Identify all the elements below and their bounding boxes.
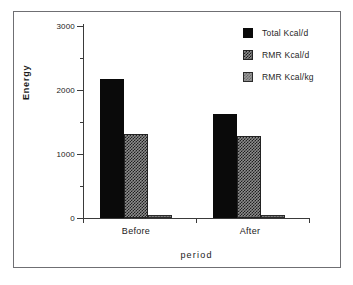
bar-before-rmr-kcal-kg	[148, 215, 172, 218]
legend-swatch-hatch-icon	[243, 50, 253, 60]
bar-after-rmr-kcal-d	[237, 136, 261, 218]
legend-label-rmr-kcal-kg: RMR Kcal/kg	[262, 72, 314, 82]
y-tick-label-3000: 3000	[56, 22, 75, 31]
y-tick-minor-2500	[80, 58, 83, 59]
bar-before-rmr-kcal-d	[124, 134, 148, 218]
legend-label-rmr-kcal-d: RMR Kcal/d	[262, 50, 309, 60]
bar-after-rmr-kcal-kg	[261, 215, 285, 218]
x-category-label-after: After	[240, 226, 261, 236]
legend-label-total-kcal-d: Total Kcal/d	[262, 28, 308, 38]
x-tick-middle	[196, 219, 197, 223]
chart-legend: Total Kcal/d RMR Kcal/d RMR Kcal/kg	[243, 25, 338, 91]
y-tick-minor-500	[80, 186, 83, 187]
legend-swatch-solid-icon	[243, 28, 253, 38]
y-tick-minor-1500	[80, 122, 83, 123]
bar-before-total-kcal-d	[100, 79, 124, 218]
y-tick-3000	[77, 26, 83, 27]
bar-after-total-kcal-d	[213, 114, 237, 218]
y-tick-label-1000: 1000	[56, 150, 75, 159]
y-tick-1000	[77, 154, 83, 155]
x-tick-left	[83, 219, 84, 223]
legend-item-rmr-kcal-kg: RMR Kcal/kg	[243, 69, 338, 85]
y-tick-2000	[77, 90, 83, 91]
y-axis-title: Energy	[21, 65, 31, 100]
bar-chart-figure: Energy 3000 2000 1000 0	[0, 0, 353, 285]
x-category-label-before: Before	[122, 226, 150, 236]
legend-swatch-light-icon	[243, 72, 253, 82]
x-tick-right	[309, 219, 310, 223]
x-axis-title: period	[83, 250, 310, 260]
legend-item-total-kcal-d: Total Kcal/d	[243, 25, 338, 41]
y-tick-label-0: 0	[70, 214, 75, 223]
legend-item-rmr-kcal-d: RMR Kcal/d	[243, 47, 338, 63]
y-tick-label-2000: 2000	[56, 86, 75, 95]
